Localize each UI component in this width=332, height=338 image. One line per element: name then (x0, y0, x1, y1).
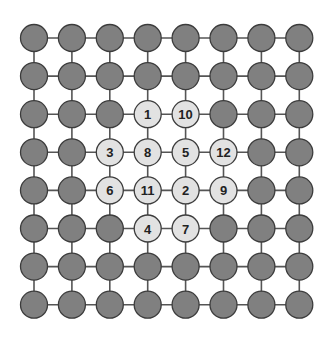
grid-node (96, 101, 123, 128)
dark-node-circle (286, 139, 313, 166)
dark-node-circle (248, 101, 275, 128)
grid-node (248, 63, 275, 90)
dark-node-circle (96, 291, 123, 318)
grid-node (286, 253, 313, 280)
dark-node-circle (96, 63, 123, 90)
grid-node (248, 25, 275, 52)
grid-node (172, 253, 199, 280)
grid-node-labeled: 10 (172, 101, 199, 128)
dark-node-circle (58, 139, 85, 166)
grid-node (96, 63, 123, 90)
grid-node (286, 177, 313, 204)
grid-node (286, 291, 313, 318)
grid-node (134, 25, 161, 52)
dark-node-circle (21, 139, 48, 166)
dark-node-circle (248, 215, 275, 242)
dark-node-circle (96, 253, 123, 280)
grid-node (172, 25, 199, 52)
dark-node-circle (248, 291, 275, 318)
grid-node (286, 139, 313, 166)
node-label: 5 (182, 145, 189, 160)
grid-node-labeled: 6 (96, 177, 123, 204)
dark-node-circle (248, 139, 275, 166)
dark-node-circle (210, 101, 237, 128)
dark-node-circle (286, 63, 313, 90)
grid-node (21, 139, 48, 166)
grid-node (21, 253, 48, 280)
dark-node-circle (210, 291, 237, 318)
grid-node (21, 215, 48, 242)
node-label: 10 (178, 107, 192, 122)
grid-node (172, 63, 199, 90)
grid-node (58, 215, 85, 242)
grid-node (58, 63, 85, 90)
dark-node-circle (21, 25, 48, 52)
dark-node-circle (134, 253, 161, 280)
grid-node (96, 25, 123, 52)
grid-node (134, 63, 161, 90)
grid-node (286, 63, 313, 90)
grid-graph-diagram: 110385126112947 (0, 0, 332, 338)
dark-node-circle (58, 291, 85, 318)
dark-node-circle (58, 177, 85, 204)
dark-node-circle (21, 215, 48, 242)
grid-node-labeled: 12 (210, 139, 237, 166)
node-label: 6 (106, 183, 113, 198)
dark-node-circle (21, 177, 48, 204)
grid-node-labeled: 5 (172, 139, 199, 166)
grid-node (96, 291, 123, 318)
grid-node (248, 139, 275, 166)
grid-node (248, 101, 275, 128)
dark-node-circle (248, 63, 275, 90)
dark-node-circle (286, 101, 313, 128)
dark-node-circle (96, 101, 123, 128)
grid-node (21, 63, 48, 90)
node-label: 12 (216, 145, 230, 160)
dark-node-circle (248, 253, 275, 280)
node-label: 7 (182, 222, 189, 237)
grid-node (248, 215, 275, 242)
dark-node-circle (21, 253, 48, 280)
grid-node-labeled: 1 (134, 101, 161, 128)
dark-node-circle (134, 63, 161, 90)
dark-node-circle (172, 291, 199, 318)
grid-node (96, 215, 123, 242)
grid-node (210, 215, 237, 242)
grid-node (210, 25, 237, 52)
grid-node (21, 291, 48, 318)
grid-nodes: 110385126112947 (21, 25, 313, 319)
grid-node (58, 177, 85, 204)
dark-node-circle (58, 101, 85, 128)
grid-node-labeled: 3 (96, 139, 123, 166)
grid-node (58, 139, 85, 166)
grid-node (248, 253, 275, 280)
grid-node (286, 101, 313, 128)
dark-node-circle (21, 63, 48, 90)
node-label: 8 (144, 145, 151, 160)
dark-node-circle (210, 25, 237, 52)
dark-node-circle (96, 25, 123, 52)
grid-node-labeled: 2 (172, 177, 199, 204)
dark-node-circle (286, 253, 313, 280)
node-label: 9 (220, 183, 227, 198)
grid-node (21, 25, 48, 52)
grid-node (172, 291, 199, 318)
grid-node (58, 25, 85, 52)
grid-node-labeled: 9 (210, 177, 237, 204)
node-label: 11 (141, 183, 155, 198)
grid-node (96, 253, 123, 280)
grid-node (58, 291, 85, 318)
dark-node-circle (172, 25, 199, 52)
dark-node-circle (58, 253, 85, 280)
dark-node-circle (172, 253, 199, 280)
node-label: 3 (106, 145, 113, 160)
node-label: 1 (144, 107, 151, 122)
dark-node-circle (96, 215, 123, 242)
node-label: 2 (182, 183, 189, 198)
dark-node-circle (134, 291, 161, 318)
dark-node-circle (286, 25, 313, 52)
dark-node-circle (58, 25, 85, 52)
grid-node (21, 101, 48, 128)
grid-node (210, 63, 237, 90)
grid-node-labeled: 8 (134, 139, 161, 166)
